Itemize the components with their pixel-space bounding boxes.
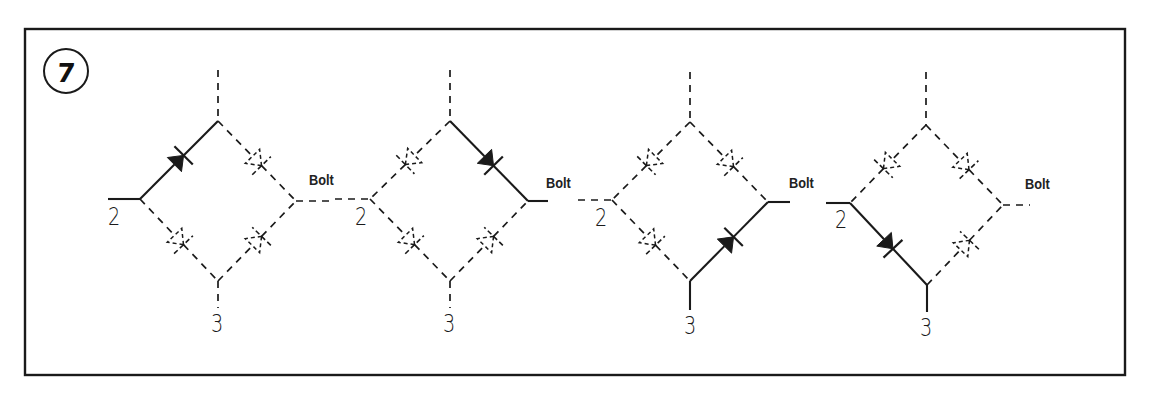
solid-wire: [450, 121, 484, 156]
dashed-wire: [494, 201, 528, 236]
terminal-2-label: 2: [595, 206, 607, 230]
dashed-wire: [370, 165, 405, 199]
dashed-wire: [415, 245, 450, 281]
bolt-label: Bolt: [309, 172, 334, 187]
dashed-wire: [656, 122, 690, 156]
dashed-wire: [893, 125, 926, 159]
bolt-label: Bolt: [546, 175, 571, 190]
solid-wire: [734, 202, 768, 237]
diagram-canvas: 7 23Bolt23Bolt23Bolt23Bolt: [0, 0, 1153, 394]
dashed-wire: [370, 199, 405, 235]
bridge-2: [335, 70, 548, 308]
solid-wire: [494, 166, 528, 201]
dashed-wire: [183, 245, 218, 281]
figure-frame: [25, 29, 1125, 375]
dashed-wire: [262, 201, 296, 236]
dashed-wire: [969, 170, 1003, 205]
terminal-2-label: 2: [835, 208, 847, 232]
dashed-wire: [262, 166, 296, 201]
dashed-wire: [850, 169, 883, 203]
terminal-3-label: 3: [684, 314, 696, 338]
solid-wire: [690, 246, 724, 281]
bolt-label: Bolt: [1025, 176, 1050, 191]
bolt-label: Bolt: [789, 175, 814, 190]
dashed-wire: [450, 246, 484, 281]
blocked-diode-icon: [398, 228, 424, 253]
bridge-4: [826, 72, 1030, 312]
dashed-wire: [656, 245, 690, 281]
solid-wire: [893, 249, 927, 285]
dashed-wire: [612, 166, 646, 200]
dashed-wire: [218, 121, 252, 156]
dashed-wire: [734, 167, 768, 202]
dashed-wire: [690, 122, 724, 157]
dashed-wire: [218, 246, 252, 281]
dashed-wire: [415, 121, 450, 155]
bridge-circuits: [108, 70, 1030, 312]
terminal-3-label: 3: [920, 316, 932, 340]
solid-wire: [140, 165, 174, 199]
bridge-1: [108, 70, 330, 308]
figure-number-badge: 7: [43, 48, 89, 94]
bridge-3: [578, 72, 790, 310]
terminal-2-label: 2: [355, 205, 367, 229]
solid-wire: [850, 203, 884, 239]
figure-number: 7: [43, 58, 88, 88]
terminal-3-label: 3: [443, 312, 455, 336]
dashed-wire: [926, 125, 960, 160]
dashed-wire: [140, 199, 175, 235]
terminal-3-label: 3: [211, 312, 223, 336]
bridge-rectifier-diagram: [0, 0, 1153, 394]
solid-wire: [184, 121, 218, 155]
dashed-wire: [612, 200, 646, 236]
dashed-wire: [927, 250, 961, 285]
dashed-wire: [969, 205, 1003, 240]
terminal-2-label: 2: [108, 205, 120, 229]
